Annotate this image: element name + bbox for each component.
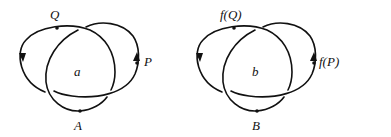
diagram-canvas: Q P A a f(Q) f(P) B b	[0, 0, 391, 137]
point-label-p: P	[143, 54, 152, 69]
point-label-fp: f(P)	[319, 54, 339, 69]
point-label-fq: f(Q)	[220, 7, 242, 22]
diagram-b: f(Q) f(P) B b	[196, 7, 339, 133]
point-label-a: A	[73, 118, 82, 133]
point-label-b: B	[252, 118, 260, 133]
point-label-q: Q	[50, 7, 60, 22]
region-label-a: a	[74, 64, 81, 79]
region-label-b: b	[252, 64, 259, 79]
diagram-a: Q P A a	[19, 7, 152, 133]
